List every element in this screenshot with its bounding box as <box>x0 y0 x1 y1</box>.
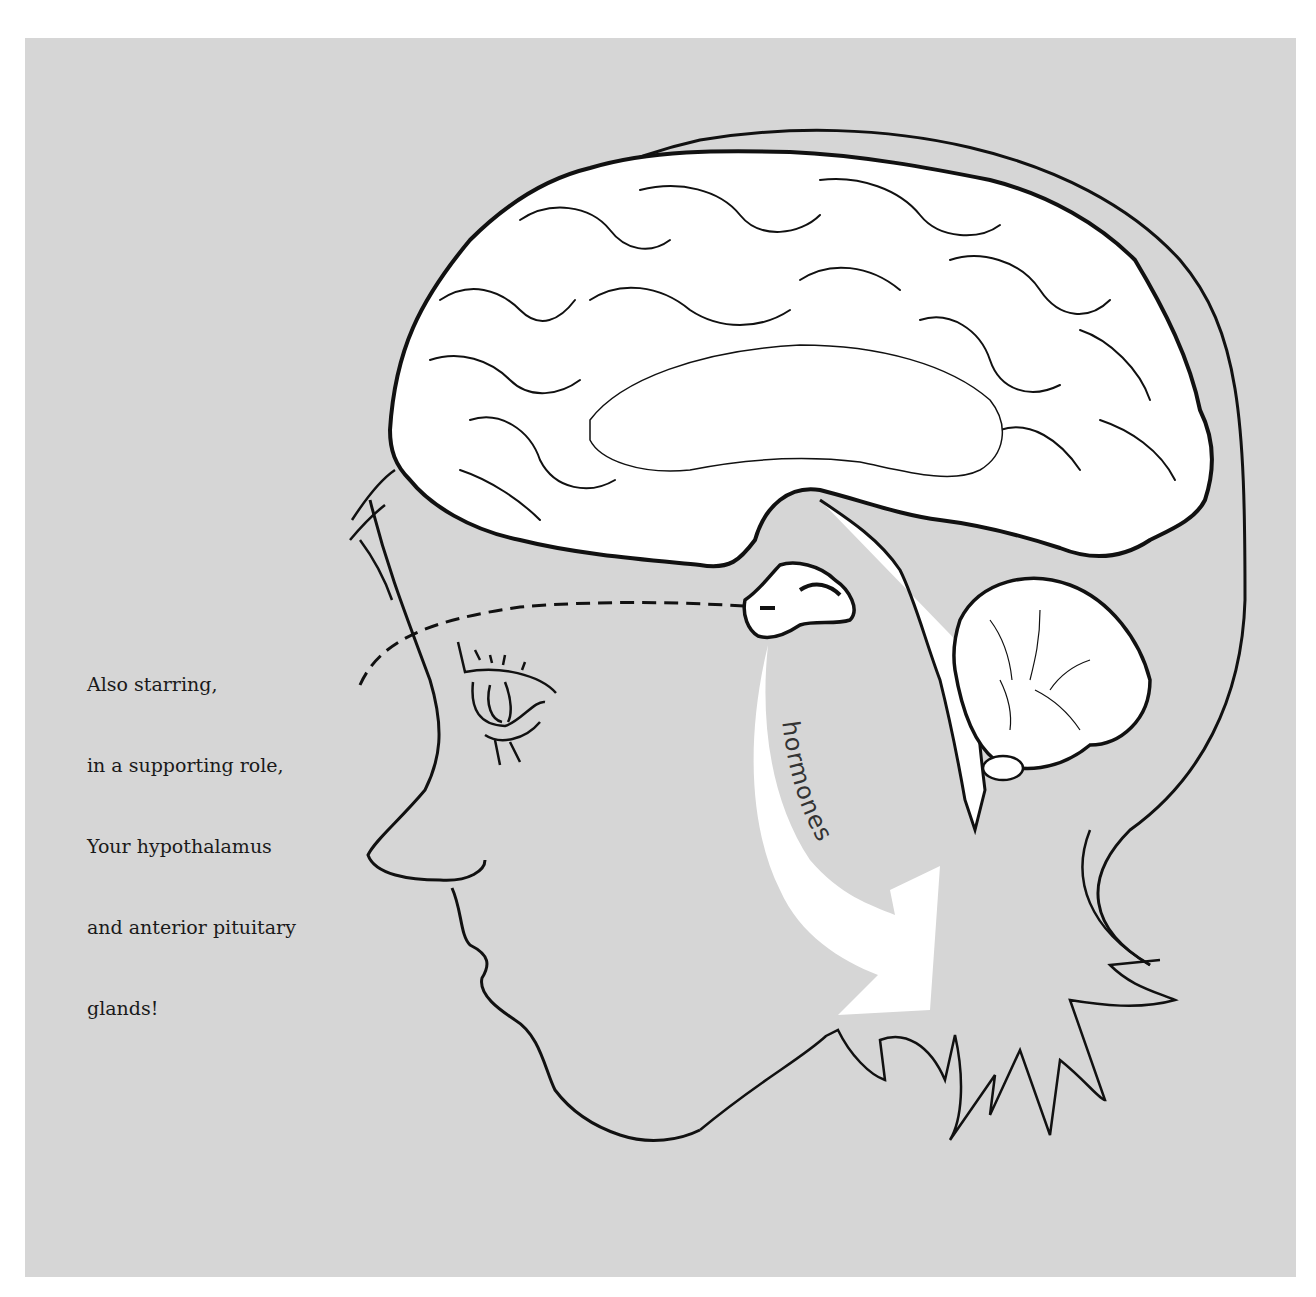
lips-chin <box>452 888 700 1140</box>
caption-line: Your hypothalamus <box>87 833 296 860</box>
caption-line: glands! <box>87 995 296 1022</box>
caption-line: in a supporting role, <box>87 752 296 779</box>
pons-bulge <box>983 756 1023 780</box>
pointer-dashed-line <box>360 603 770 685</box>
caption-line: Also starring, <box>87 671 296 698</box>
pituitary-gland <box>744 563 854 637</box>
hair-wisp <box>350 470 395 600</box>
hormones-arrow <box>754 645 940 1015</box>
face-profile <box>368 500 485 880</box>
caption: Also starring, in a supporting role, You… <box>87 617 296 1049</box>
brain-cerebellum <box>954 578 1150 768</box>
neck-hair <box>700 960 1175 1140</box>
caption-line: and anterior pituitary <box>87 914 296 941</box>
eye <box>458 642 556 765</box>
neck-hair-right <box>1083 830 1151 965</box>
